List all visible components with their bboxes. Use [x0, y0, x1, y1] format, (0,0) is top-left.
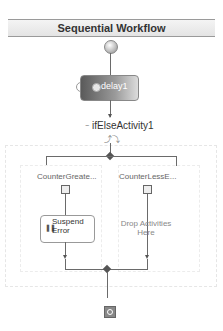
connector: [46, 156, 176, 157]
condition-icon[interactable]: [143, 185, 152, 194]
end-icon-inner: [107, 309, 113, 315]
start-icon[interactable]: [104, 40, 118, 54]
branch-icon: ⤴⤵: [104, 133, 120, 144]
arrow-icon: [108, 114, 112, 118]
connector: [65, 259, 66, 269]
delay-label: delay1: [101, 81, 128, 91]
condition-icon[interactable]: [61, 185, 70, 194]
connector: [107, 272, 108, 298]
connector: [65, 242, 66, 255]
branch-label: CounterGreate...: [37, 172, 97, 181]
clock-icon: [92, 83, 101, 92]
branch-label: CounterLessE...: [119, 172, 176, 181]
workflow-header: Sequential Workflow: [8, 19, 215, 37]
drop-placeholder[interactable]: Drop ActivitiesHere: [116, 219, 176, 237]
connector: [147, 259, 148, 269]
connector: [110, 53, 111, 75]
collapse-icon[interactable]: −: [85, 123, 90, 128]
connector: [65, 194, 66, 215]
ifelse-label: ifElseActivity1: [92, 120, 154, 131]
suspend-label: SuspendError: [52, 217, 84, 235]
